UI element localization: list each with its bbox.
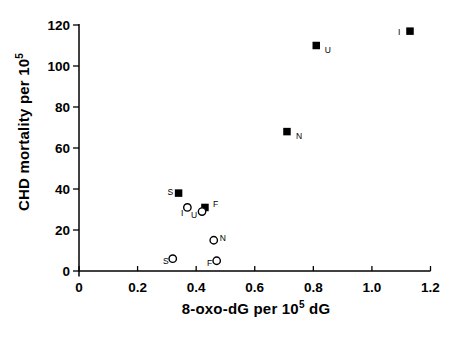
point-label-open-circles-I: I [181,208,183,218]
x-tick-label: 0 [75,280,83,295]
plot-canvas: 00.20.40.60.81.01.2020406080100120SFNUII… [0,0,459,338]
x-tick-label: 1.2 [421,280,440,295]
data-point-circle-U [198,208,205,215]
y-tick-label: 60 [55,141,70,156]
point-label-open-circles-F: F [207,258,212,268]
y-tick-label: 0 [62,264,70,279]
y-axis-title-text: CHD mortality per 10 [15,59,32,211]
data-point-square-N [283,128,291,136]
point-label-open-circles-N: N [220,233,226,243]
point-label-filled-squares-I: I [398,27,400,37]
x-tick-label: 1.0 [363,280,382,295]
point-label-open-circles-S: S [163,256,169,266]
scatter-chart-figure: 00.20.40.60.81.01.2020406080100120SFNUII… [0,0,459,338]
point-label-filled-squares-S: S [167,187,173,197]
data-point-square-U [313,42,321,50]
data-point-circle-S [169,255,176,262]
y-tick-label: 40 [55,182,70,197]
x-axis-title: 8-oxo-dG per 105 dG [182,300,331,317]
point-label-filled-squares-F: F [213,199,218,209]
data-point-square-S [175,189,183,197]
x-axis-title-suffix: dG [305,300,331,317]
y-axis-title: CHD mortality per 105 [15,53,32,211]
data-point-circle-N [210,237,217,244]
point-label-filled-squares-N: N [296,131,302,141]
y-tick-label: 100 [47,59,70,74]
y-axis-title-superscript: 5 [14,53,25,59]
y-tick-label: 20 [55,223,70,238]
y-tick-label: 80 [55,100,70,115]
x-tick-label: 0.4 [187,280,206,295]
x-axis-title-text: 8-oxo-dG per 10 [182,300,299,317]
x-tick-label: 0.6 [245,280,264,295]
y-tick-label: 120 [47,18,70,33]
data-point-circle-F [213,257,220,264]
point-label-filled-squares-U: U [325,45,331,55]
point-label-open-circles-U: U [191,210,197,220]
x-tick-label: 0.2 [128,280,147,295]
x-tick-label: 0.8 [304,280,323,295]
data-point-square-I [406,27,414,35]
